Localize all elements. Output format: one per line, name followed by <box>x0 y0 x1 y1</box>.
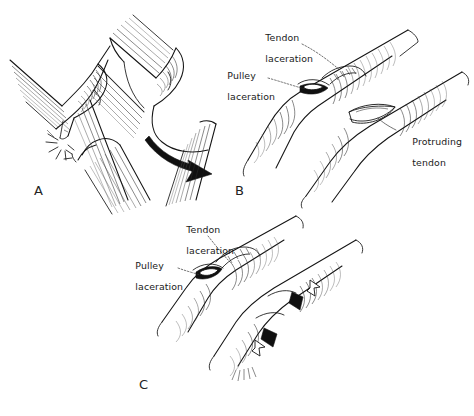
repair-arrowhead-open-lower <box>252 340 265 356</box>
panel-a-left-diagram <box>10 46 150 214</box>
label-line-1: Tendon <box>186 224 220 235</box>
label-line-1: Pulley <box>135 260 164 271</box>
label-line-1: Tendon <box>265 32 299 43</box>
bone-shaft-upper-left <box>10 60 70 130</box>
panel-letter-a: A <box>34 183 43 198</box>
pulley-laceration-opening-b <box>298 80 329 94</box>
protruding-tendon-b <box>349 104 395 123</box>
panel-a-right-diagram <box>74 15 216 207</box>
panel-letter-b: B <box>235 183 244 198</box>
distal-fragment-left <box>64 139 150 214</box>
finger-shading-c2 <box>230 262 341 376</box>
pulley-laceration-label-b: Pulley laceration <box>215 60 275 113</box>
medical-illustration-figure: A Tendon laceration Pulley laceration Pr… <box>0 0 474 416</box>
suture-tufts-c <box>232 367 256 381</box>
label-line-1: Pulley <box>227 70 256 81</box>
label-line-1: Protruding <box>412 136 462 147</box>
pulley-laceration-label-c: Pulley laceration <box>123 250 183 303</box>
bone-shaft-upper-right <box>110 15 173 78</box>
repair-arrowhead-solid-lower <box>261 328 277 347</box>
label-line-2: laceration <box>227 91 275 102</box>
protruding-tendon-label-b: Protruding tendon <box>400 126 462 179</box>
label-line-2: laceration <box>186 245 234 256</box>
repair-arrowhead-solid-upper <box>289 292 303 310</box>
label-line-2: laceration <box>135 281 183 292</box>
panel-letter-c: C <box>139 377 148 392</box>
label-line-2: tendon <box>412 157 446 168</box>
finger-shading-b1 <box>330 42 395 104</box>
